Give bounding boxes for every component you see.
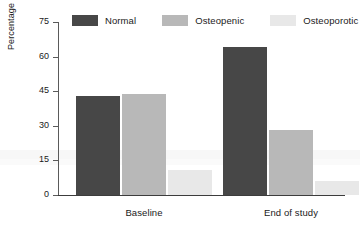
y-tick-label-75: 75: [39, 16, 49, 26]
plot-area: 01530456075: [58, 22, 345, 195]
bar-osteoporotic-baseline: [168, 170, 212, 195]
bar-osteopenic-end-of-study: [269, 130, 313, 195]
bar-osteopenic-baseline: [122, 94, 166, 195]
y-tick-label-30: 30: [39, 120, 49, 130]
y-tick-0: 0: [53, 195, 58, 196]
y-tick-label-60: 60: [39, 51, 49, 61]
y-tick-label-15: 15: [39, 154, 49, 164]
y-tick-45: 45: [53, 91, 58, 92]
y-tick-60: 60: [53, 57, 58, 58]
bar-normal-end-of-study: [223, 47, 267, 195]
x-axis-line: [58, 195, 345, 196]
bar-normal-baseline: [76, 96, 120, 195]
y-tick-30: 30: [53, 126, 58, 127]
x-label-end-of-study: End of study: [223, 207, 359, 218]
y-tick-15: 15: [53, 160, 58, 161]
x-label-baseline: Baseline: [76, 207, 212, 218]
y-tick-75: 75: [53, 22, 58, 23]
y-tick-label-45: 45: [39, 85, 49, 95]
bar-osteoporotic-end-of-study: [315, 181, 359, 195]
bar-chart: Normal Osteopenic Osteoporotic Percentag…: [0, 0, 360, 233]
y-axis-title: Percentage of subjects: [6, 36, 16, 50]
y-axis-line: [58, 22, 59, 195]
y-tick-label-0: 0: [44, 189, 49, 199]
